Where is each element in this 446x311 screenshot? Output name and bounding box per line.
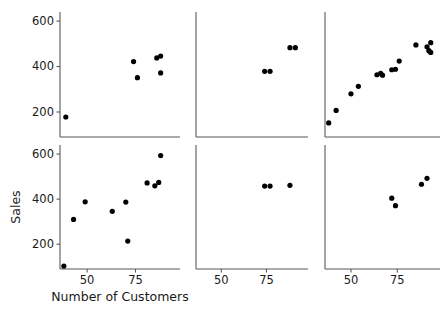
y-tick-label: 400 (32, 192, 54, 206)
data-point (158, 53, 163, 58)
data-point (326, 120, 331, 125)
scatter-plot-matrix-figure: 200200400400600600505050757575Number of … (0, 0, 446, 311)
data-point (267, 183, 272, 188)
data-point (63, 114, 68, 119)
y-axis-title: Sales (8, 190, 23, 223)
x-tick-label: 75 (259, 273, 274, 287)
data-point (380, 73, 385, 78)
data-point (287, 183, 292, 188)
x-tick-label: 50 (80, 273, 95, 287)
x-tick-label: 75 (390, 273, 405, 287)
data-point (110, 209, 115, 214)
data-point (123, 199, 128, 204)
figure-background (0, 0, 446, 311)
data-point (158, 153, 163, 158)
data-point (419, 182, 424, 187)
data-point (131, 59, 136, 64)
data-point (356, 84, 361, 89)
y-tick-label: 600 (32, 147, 54, 161)
data-point (428, 40, 433, 45)
data-point (413, 42, 418, 47)
data-point (424, 176, 429, 181)
data-point (145, 180, 150, 185)
data-point (61, 263, 66, 268)
data-point (348, 91, 353, 96)
data-point (287, 45, 292, 50)
y-tick-label: 200 (32, 105, 54, 119)
data-point (262, 69, 267, 74)
y-tick-label: 400 (32, 59, 54, 73)
data-point (334, 108, 339, 113)
x-tick-label: 50 (344, 273, 359, 287)
data-point (393, 67, 398, 72)
data-point (83, 199, 88, 204)
data-point (156, 180, 161, 185)
data-point (397, 58, 402, 63)
data-point (262, 183, 267, 188)
data-point (125, 238, 130, 243)
data-point (293, 45, 298, 50)
data-point (393, 203, 398, 208)
data-point (267, 69, 272, 74)
data-point (428, 50, 433, 55)
x-tick-label: 75 (128, 273, 143, 287)
x-axis-title: Number of Customers (51, 289, 188, 304)
y-tick-label: 600 (32, 14, 54, 28)
data-point (135, 75, 140, 80)
data-point (71, 217, 76, 222)
x-tick-label: 50 (214, 273, 229, 287)
plot-canvas: 200200400400600600505050757575Number of … (0, 0, 446, 311)
data-point (158, 70, 163, 75)
y-tick-label: 200 (32, 237, 54, 251)
data-point (389, 196, 394, 201)
